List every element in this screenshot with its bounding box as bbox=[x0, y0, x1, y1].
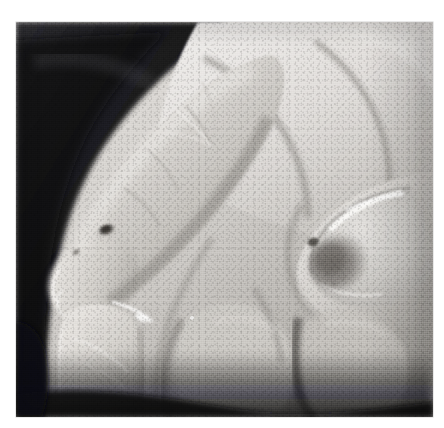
hand-photograph bbox=[16, 22, 433, 417]
palm-specular-dot bbox=[190, 316, 194, 320]
photograph-frame bbox=[16, 22, 433, 417]
page-root: Black and white clinical close-up photog… bbox=[0, 0, 444, 428]
